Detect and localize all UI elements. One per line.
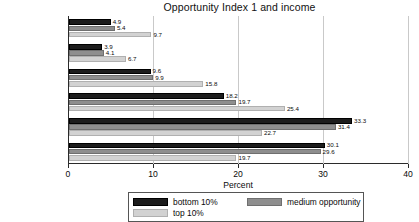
x-axis-label: Percent [68, 180, 408, 190]
bar[interactable] [69, 155, 236, 161]
legend-row: top 10% [133, 207, 359, 218]
bar-value-label: 6.7 [126, 56, 137, 62]
bar[interactable] [69, 81, 203, 87]
bar-group: 30.129.619.7 [69, 143, 408, 161]
bar-row: 15.8 [69, 81, 408, 87]
bar-value-label: 33.3 [352, 118, 366, 124]
bar-group: 3.94.16.7 [69, 44, 408, 62]
bar[interactable] [69, 143, 325, 149]
bar[interactable] [69, 50, 104, 56]
x-axis-tick-mark [68, 164, 69, 168]
bar[interactable] [69, 118, 352, 124]
bar-row: 6.7 [69, 56, 408, 62]
chart-legend: bottom 10% medium opportunity top 10% [128, 192, 364, 222]
legend-item-medium-opportunity: medium opportunity [247, 197, 359, 207]
legend-row: bottom 10% medium opportunity [133, 196, 359, 207]
bar-value-label: 9.9 [153, 75, 164, 81]
bar[interactable] [69, 149, 321, 155]
bar[interactable] [69, 100, 236, 106]
x-axis-tick-label: 20 [233, 169, 243, 179]
x-axis-tick-mark [408, 164, 409, 168]
legend-swatch-icon [133, 198, 168, 206]
bar-row: 30.1 [69, 143, 408, 149]
legend-label: top 10% [173, 208, 204, 218]
bar-value-label: 15.8 [203, 81, 217, 87]
bar-value-label: 25.4 [285, 105, 299, 111]
bar-value-label: 29.6 [321, 149, 335, 155]
bar-group: 18.219.725.4 [69, 93, 408, 111]
x-axis-tick-label: 0 [66, 169, 71, 179]
bar-value-label: 19.7 [236, 155, 250, 161]
bar-row: 22.7 [69, 130, 408, 136]
bar[interactable] [69, 32, 151, 38]
bar-value-label: 9.7 [151, 31, 162, 37]
x-axis-tick-label: 30 [318, 169, 328, 179]
bar-value-label: 31.4 [336, 124, 350, 130]
x-axis-tick-label: 10 [148, 169, 158, 179]
legend-item-bottom-10: bottom 10% [133, 197, 247, 207]
bar[interactable] [69, 26, 115, 32]
chart-title: Opportunity Index 1 and income [0, 1, 419, 13]
bar-value-label: 22.7 [262, 130, 276, 136]
bar-row: 19.7 [69, 100, 408, 106]
x-axis-tick-label: 40 [403, 169, 413, 179]
bar[interactable] [69, 44, 102, 50]
chart-figure: Opportunity Index 1 and income 4.95.49.7… [0, 0, 419, 222]
bar-row: 9.6 [69, 69, 408, 75]
legend-swatch-icon [247, 198, 282, 206]
x-axis-tick-mark [153, 164, 154, 168]
bar-row: 9.7 [69, 32, 408, 38]
bar-row: 9.9 [69, 75, 408, 81]
bar-row: 19.7 [69, 155, 408, 161]
bar[interactable] [69, 130, 262, 136]
bar[interactable] [69, 93, 224, 99]
legend-label: medium opportunity [287, 197, 361, 207]
x-axis-tick-mark [238, 164, 239, 168]
bar[interactable] [69, 75, 153, 81]
plot-area: 4.95.49.73.94.16.79.69.915.818.219.725.4… [68, 16, 408, 164]
legend-item-top-10: top 10% [133, 208, 251, 218]
bar-value-label: 4.1 [104, 50, 115, 56]
legend-swatch-icon [133, 209, 168, 217]
bar[interactable] [69, 69, 151, 75]
bar-row: 4.1 [69, 50, 408, 56]
bar-value-label: 5.4 [115, 25, 126, 31]
x-axis-tick-mark [323, 164, 324, 168]
bar-group: 4.95.49.7 [69, 19, 408, 37]
bar-row: 3.9 [69, 44, 408, 50]
bar-row: 5.4 [69, 26, 408, 32]
gridline [408, 16, 409, 164]
bar[interactable] [69, 106, 285, 112]
bar-row: 31.4 [69, 124, 408, 130]
bar-value-label: 19.7 [236, 99, 250, 105]
bar[interactable] [69, 56, 126, 62]
bar[interactable] [69, 124, 336, 130]
bar-row: 33.3 [69, 118, 408, 124]
bar[interactable] [69, 19, 111, 25]
bar-group: 33.331.422.7 [69, 118, 408, 136]
bar-group: 9.69.915.8 [69, 69, 408, 87]
legend-label: bottom 10% [173, 197, 218, 207]
bar-row: 25.4 [69, 106, 408, 112]
